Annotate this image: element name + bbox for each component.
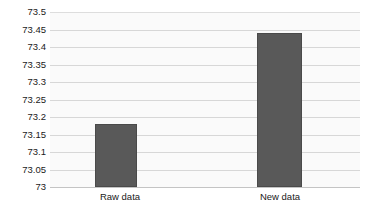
gridline (50, 82, 360, 83)
gridline (50, 30, 360, 31)
plot-area (50, 12, 360, 188)
y-tick-label: 73.05 (0, 165, 46, 175)
x-tick-label-raw-data: Raw data (60, 191, 180, 203)
y-tick-label: 73.4 (0, 42, 46, 52)
gridline (50, 100, 360, 101)
bar-new-data (257, 33, 302, 187)
y-tick-label: 73.1 (0, 147, 46, 157)
y-tick-label: 73.3 (0, 77, 46, 87)
y-tick-label: 73.5 (0, 7, 46, 17)
y-tick-label: 73.35 (0, 60, 46, 70)
y-tick-label: 73.25 (0, 95, 46, 105)
axis-baseline (50, 187, 360, 188)
y-tick-label: 73.2 (0, 112, 46, 122)
gridline (50, 117, 360, 118)
x-tick-label-new-data: New data (220, 191, 340, 203)
y-tick-label: 73 (0, 182, 46, 192)
bar-raw-data (95, 124, 137, 187)
gridline (50, 47, 360, 48)
x-axis: Raw data New data (50, 191, 360, 211)
gridline (50, 65, 360, 66)
y-tick-label: 73.15 (0, 130, 46, 140)
y-axis: 73.5 73.45 73.4 73.35 73.3 73.25 73.2 73… (0, 0, 46, 212)
gridline (50, 12, 360, 13)
y-tick-label: 73.45 (0, 25, 46, 35)
bar-chart: 73.5 73.45 73.4 73.35 73.3 73.25 73.2 73… (0, 0, 367, 212)
